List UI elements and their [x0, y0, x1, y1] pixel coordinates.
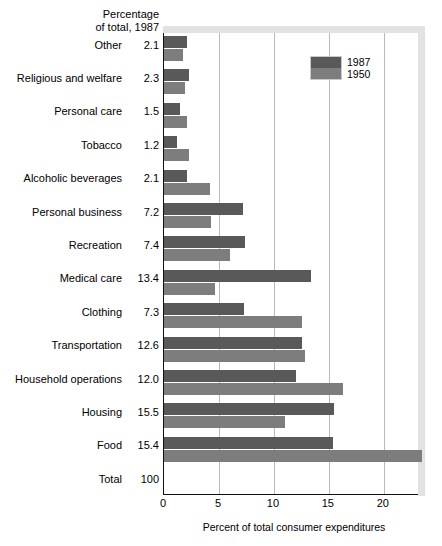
- category-percentage: 1.2: [129, 139, 159, 151]
- category-name: Religious and welfare: [17, 72, 122, 84]
- bar-row: [164, 233, 418, 266]
- bar-1987: [164, 270, 311, 282]
- category-percentage: 100: [129, 473, 159, 485]
- category-percentage: 13.4: [129, 272, 159, 284]
- x-axis-tick-label: 10: [267, 497, 279, 509]
- bar-1950: [164, 416, 285, 428]
- bar-1987: [164, 170, 187, 182]
- bar-1950: [164, 283, 215, 295]
- category-name: Medical care: [60, 272, 122, 284]
- category-name: Total: [99, 473, 122, 485]
- bar-1987: [164, 303, 244, 315]
- bar-1950: [164, 383, 343, 395]
- category-percentage: 1.5: [129, 105, 159, 117]
- category-label-row: Tobacco1.2: [0, 128, 159, 161]
- category-name: Tobacco: [81, 139, 122, 151]
- bar-1950: [164, 116, 187, 128]
- column-header-line-1: Percentage: [0, 8, 159, 21]
- bar-row: [164, 267, 418, 300]
- bar-1950: [164, 350, 305, 362]
- x-axis-ticks: 05101520: [163, 497, 418, 511]
- bar-1987: [164, 36, 187, 48]
- category-percentage: 7.3: [129, 306, 159, 318]
- bar-row: [164, 100, 418, 133]
- bar-row: [164, 334, 418, 367]
- bar-row: [164, 167, 418, 200]
- category-percentage: 2.1: [129, 39, 159, 51]
- category-name: Clothing: [82, 306, 122, 318]
- bar-1987: [164, 236, 245, 248]
- category-label-row: Personal business7.2: [0, 195, 159, 228]
- category-name: Transportation: [51, 339, 122, 351]
- x-axis-title: Percent of total consumer expenditures: [163, 521, 425, 533]
- bar-1950: [164, 450, 422, 462]
- legend-swatch-1987: [311, 57, 341, 68]
- category-percentage: 2.3: [129, 72, 159, 84]
- category-label-row: Medical care13.4: [0, 262, 159, 295]
- bar-1987: [164, 437, 333, 449]
- category-labels: Other2.1Religious and welfare2.3Personal…: [0, 28, 159, 495]
- category-name: Food: [97, 439, 122, 451]
- bar-row: [164, 33, 418, 66]
- bar-row: [164, 300, 418, 333]
- bar-1987: [164, 136, 177, 148]
- bars-layer: [164, 33, 418, 494]
- category-label-row: Other2.1: [0, 28, 159, 61]
- legend-label-1987: 1987: [347, 56, 370, 68]
- bar-1987: [164, 370, 296, 382]
- bar-row: [164, 367, 418, 400]
- x-axis-tick-label: 0: [160, 497, 166, 509]
- bar-1950: [164, 249, 230, 261]
- category-label-row: Household operations12.0: [0, 362, 159, 395]
- category-label-row: Total100: [0, 462, 159, 495]
- category-label-row: Transportation12.6: [0, 329, 159, 362]
- category-percentage: 15.5: [129, 406, 159, 418]
- bar-1950: [164, 49, 183, 61]
- bar-1950: [164, 216, 211, 228]
- category-label-row: Clothing7.3: [0, 295, 159, 328]
- category-percentage: 12.6: [129, 339, 159, 351]
- x-axis-tick-label: 20: [377, 497, 389, 509]
- legend-swatches: [310, 56, 342, 80]
- bar-1950: [164, 82, 185, 94]
- bar-row: [164, 434, 418, 467]
- category-percentage: 2.1: [129, 172, 159, 184]
- category-label-row: Food15.4: [0, 429, 159, 462]
- legend: 1987 1950: [310, 56, 370, 80]
- bar-1987: [164, 103, 180, 115]
- bar-row: [164, 400, 418, 433]
- x-axis-tick-label: 5: [215, 497, 221, 509]
- bar-chart: Percentage of total, 1987 Other2.1Religi…: [0, 0, 442, 546]
- category-percentage: 12.0: [129, 373, 159, 385]
- bar-1987: [164, 403, 334, 415]
- category-name: Personal business: [32, 206, 122, 218]
- legend-label-1950: 1950: [347, 68, 370, 80]
- category-percentage: 15.4: [129, 439, 159, 451]
- plot-area: [163, 33, 418, 495]
- category-label-row: Recreation7.4: [0, 228, 159, 261]
- category-label-row: Religious and welfare2.3: [0, 61, 159, 94]
- category-label-row: Housing15.5: [0, 395, 159, 428]
- category-label-row: Alcoholic beverages2.1: [0, 162, 159, 195]
- legend-labels: 1987 1950: [347, 56, 370, 80]
- bar-1987: [164, 203, 243, 215]
- bar-row: [164, 200, 418, 233]
- bar-row: [164, 66, 418, 99]
- bar-1987: [164, 69, 189, 81]
- category-name: Housing: [82, 406, 122, 418]
- category-name: Personal care: [54, 105, 122, 117]
- category-name: Alcoholic beverages: [24, 172, 122, 184]
- bar-row: [164, 133, 418, 166]
- x-axis-tick-label: 15: [322, 497, 334, 509]
- category-percentage: 7.2: [129, 206, 159, 218]
- legend-swatch-1950: [311, 68, 341, 79]
- category-name: Other: [94, 39, 122, 51]
- bar-1950: [164, 149, 189, 161]
- bar-1950: [164, 183, 210, 195]
- category-name: Recreation: [69, 239, 122, 251]
- bar-1950: [164, 316, 302, 328]
- category-label-row: Personal care1.5: [0, 95, 159, 128]
- category-percentage: 7.4: [129, 239, 159, 251]
- bar-row: [164, 467, 418, 500]
- bar-1987: [164, 337, 302, 349]
